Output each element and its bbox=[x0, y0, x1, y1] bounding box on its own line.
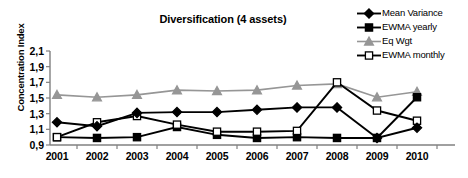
legend-label: EWMA yearly bbox=[382, 21, 437, 32]
chart-legend: Mean VarianceEWMA yearlyEq WgtEWMA month… bbox=[356, 6, 468, 62]
triangle-marker-icon bbox=[356, 34, 382, 47]
x-tick-label: 2003 bbox=[117, 150, 157, 162]
square-open-marker-icon bbox=[356, 48, 382, 61]
x-tick-label: 2001 bbox=[37, 150, 77, 162]
x-tick-label: 2010 bbox=[397, 150, 437, 162]
chart-container: Diversification (4 assets) Concentration… bbox=[0, 0, 468, 178]
x-tick-label: 2002 bbox=[77, 150, 117, 162]
legend-item[interactable]: EWMA monthly bbox=[356, 48, 468, 61]
series-ewma-yearly bbox=[53, 94, 420, 142]
x-tick-label: 2009 bbox=[357, 150, 397, 162]
diamond-marker-icon bbox=[356, 6, 382, 19]
x-tick-label: 2008 bbox=[317, 150, 357, 162]
series-ewma-monthly bbox=[53, 79, 420, 141]
x-tick-label: 2007 bbox=[277, 150, 317, 162]
x-tick-label: 2006 bbox=[237, 150, 277, 162]
x-tick-label: 2005 bbox=[197, 150, 237, 162]
legend-item[interactable]: Mean Variance bbox=[356, 6, 468, 19]
square-marker-icon bbox=[356, 20, 382, 33]
x-tick-label: 2004 bbox=[157, 150, 197, 162]
series-eq-wgt bbox=[53, 80, 422, 101]
legend-label: EWMA monthly bbox=[382, 49, 445, 60]
legend-item[interactable]: Eq Wgt bbox=[356, 34, 468, 47]
legend-label: Eq Wgt bbox=[382, 35, 412, 46]
legend-item[interactable]: EWMA yearly bbox=[356, 20, 468, 33]
legend-label: Mean Variance bbox=[382, 7, 443, 18]
